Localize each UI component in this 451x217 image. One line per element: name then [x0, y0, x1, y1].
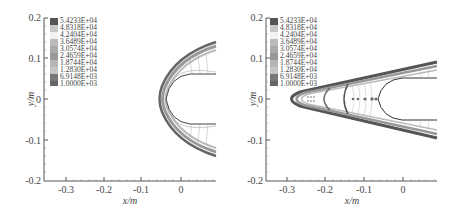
x-axis-label: x/m	[344, 195, 359, 206]
x-axis-label: x/m	[122, 195, 137, 206]
x-tick-label: -0.1	[356, 184, 372, 195]
x-tick-label: 0	[401, 184, 406, 195]
legend-label: 1.0000E+03	[60, 79, 97, 88]
x-tick-label: 0	[179, 184, 184, 195]
x-tick-label: -0.1	[133, 184, 149, 195]
y-tick-label: -0.1	[25, 135, 41, 146]
color-legend: 5.4233E+04 4.8318E+04 4.2404E+04 3.6489E…	[50, 16, 97, 88]
y-tick-label: 0	[36, 94, 41, 105]
x-tick-label: -0.2	[96, 184, 112, 195]
x-tick-label: -0.3	[279, 184, 295, 195]
y-tick-label: 0	[258, 94, 263, 105]
y-axis-label: y/m	[25, 92, 36, 107]
x-tick-label: -0.3	[58, 184, 74, 195]
y-tick-label: 0.1	[29, 53, 42, 64]
y-tick-label: -0.2	[25, 175, 41, 186]
legend-label: 1.0000E+03	[280, 79, 317, 88]
y-tick-label: -0.2	[247, 175, 263, 186]
right-contour-plot: 0.2 0.1 0 -0.1 -0.2 -0.3 -0.2 -0.1 0 x/m…	[225, 0, 451, 217]
x-tick-label: -0.2	[317, 184, 333, 195]
bow-shock-contours	[160, 42, 217, 156]
y-tick-label: 0.2	[29, 12, 42, 23]
y-tick-label: 0.2	[251, 12, 264, 23]
y-tick-label: 0.1	[251, 53, 264, 64]
color-legend: 5.4233E+04 4.8318E+04 4.2404E+04 3.6489E…	[270, 16, 317, 88]
y-tick-label: -0.1	[247, 135, 263, 146]
left-contour-plot: 0.2 0.1 0 -0.1 -0.2 -0.3 -0.2 -0.1 0 x/m…	[0, 0, 225, 217]
y-axis-label: y/m	[247, 92, 258, 107]
